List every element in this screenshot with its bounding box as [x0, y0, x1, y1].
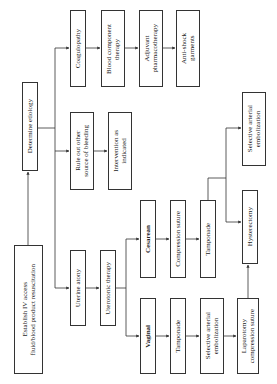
- uterotonic-therapy-box: Uterotonic therapy: [100, 250, 116, 326]
- establish-iv-access-box: Establish IV access fluid/blood product …: [14, 245, 43, 374]
- anti-shock-garments-label: Anti-shock garments: [180, 33, 196, 64]
- hysterectomy-box: Hysterectomy: [242, 190, 258, 264]
- vaginal-label: Vaginal: [144, 325, 152, 348]
- tamponade-cesarean-box: Tamponade: [200, 200, 216, 278]
- selective-embolization-cesarean-label: Selective arterial embolization: [246, 105, 262, 152]
- compression-suture-box: Compression suture: [170, 200, 186, 278]
- blood-component-therapy-box: Blood component therapy: [101, 10, 125, 87]
- hysterectomy-label: Hysterectomy: [246, 207, 254, 246]
- rule-out-bleeding-label: Rule out other source of bleeding: [74, 125, 90, 177]
- cesarean-box: Cesarean: [140, 200, 156, 278]
- tamponade-vaginal-label: Tamponade: [174, 320, 182, 353]
- tamponade-cesarean-label: Tamponade: [204, 223, 212, 256]
- laparotomy-box: Laparotomy compression suture: [237, 298, 259, 374]
- anti-shock-garments-box: Anti-shock garments: [176, 10, 200, 87]
- adjuvant-pharmacotherapy-box: Adjuvant pharmacotherapy: [139, 10, 163, 87]
- determine-etiology-label: Determine etiology: [26, 99, 34, 153]
- uterine-atony-label: Uterine atony: [74, 269, 82, 307]
- uterine-atony-box: Uterine atony: [70, 250, 86, 326]
- coagulopathy-label: Coagulopathy: [74, 29, 82, 68]
- cesarean-label: Cesarean: [144, 225, 152, 253]
- compression-suture-label: Compression suture: [174, 211, 182, 267]
- uterotonic-therapy-label: Uterotonic therapy: [104, 262, 112, 315]
- selective-embolization-vaginal-box: Selective arterial embolization: [200, 298, 224, 374]
- laparotomy-label: Laparotomy compression suture: [240, 309, 256, 363]
- intervention-label: Intervention as indicated: [112, 130, 128, 172]
- selective-embolization-cesarean-box: Selective arterial embolization: [242, 92, 266, 166]
- determine-etiology-box: Determine etiology: [22, 82, 38, 171]
- establish-iv-access-label: Establish IV access fluid/blood product …: [21, 264, 37, 355]
- rule-out-bleeding-box: Rule out other source of bleeding: [70, 112, 94, 190]
- coagulopathy-box: Coagulopathy: [70, 10, 86, 87]
- intervention-box: Intervention as indicated: [108, 112, 132, 190]
- adjuvant-pharmacotherapy-label: Adjuvant pharmacotherapy: [143, 24, 159, 73]
- vaginal-box: Vaginal: [140, 298, 156, 374]
- blood-component-therapy-label: Blood component therapy: [105, 24, 121, 74]
- tamponade-vaginal-box: Tamponade: [170, 298, 186, 374]
- selective-embolization-vaginal-label: Selective arterial embolization: [204, 312, 220, 359]
